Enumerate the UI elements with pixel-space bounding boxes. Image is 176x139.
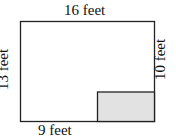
right-dimension-label: 10 feet [153,39,168,80]
left-dimension-label: 13 feet [0,49,11,90]
shaded-region [98,92,155,122]
top-dimension-label: 16 feet [64,3,105,18]
diagram-canvas [0,0,176,139]
bottom-dimension-label: 9 feet [38,123,72,138]
